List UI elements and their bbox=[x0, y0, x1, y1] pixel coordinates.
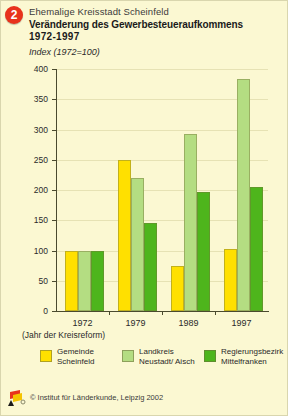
y-axis-label: Index (1972=100) bbox=[29, 47, 100, 57]
x-axis-tick-label: 1979 bbox=[106, 318, 166, 328]
bar bbox=[91, 251, 104, 312]
legend-swatch bbox=[40, 350, 52, 362]
chart-title-line-2: 1972-1997 bbox=[29, 31, 80, 42]
x-axis-tick bbox=[215, 311, 216, 315]
y-axis-tick-label: 0 bbox=[2, 306, 48, 316]
y-axis-tick-label: 200 bbox=[2, 185, 48, 195]
figure-number-badge: 2 bbox=[5, 6, 23, 24]
bar bbox=[118, 160, 131, 311]
ifl-flag-logo-icon bbox=[5, 388, 27, 408]
x-axis-tick-label: 1989 bbox=[159, 318, 219, 328]
bar bbox=[224, 249, 237, 311]
y-axis-tick-label: 100 bbox=[2, 246, 48, 256]
chart-title-line-1: Veränderung des Gewerbesteueraufkommens bbox=[29, 19, 243, 30]
y-axis-tick-label: 350 bbox=[2, 94, 48, 104]
legend-label: RegierungsbezirkMittelfranken bbox=[221, 347, 283, 366]
bar bbox=[171, 266, 184, 311]
bar bbox=[197, 192, 210, 311]
bar bbox=[65, 251, 78, 312]
legend-swatch bbox=[204, 350, 216, 362]
x-axis-tick bbox=[109, 311, 110, 315]
bar bbox=[78, 251, 91, 312]
y-axis-tick-label: 400 bbox=[2, 64, 48, 74]
y-axis-tick-label: 250 bbox=[2, 155, 48, 165]
y-axis-tick-label: 300 bbox=[2, 125, 48, 135]
legend-label: LandkreisNeustadt/ Aisch bbox=[139, 347, 195, 366]
x-axis-tick bbox=[162, 311, 163, 315]
x-axis-tick-label: 1997 bbox=[212, 318, 272, 328]
y-axis-tick-label: 50 bbox=[2, 276, 48, 286]
bar bbox=[144, 223, 157, 311]
bar bbox=[131, 178, 144, 311]
chart-footer: © Institut für Länderkunde, Leipzig 2002 bbox=[0, 388, 288, 412]
plot-area bbox=[56, 69, 268, 311]
legend-swatch bbox=[122, 350, 134, 362]
bar bbox=[184, 134, 197, 311]
y-axis-tick-label: 150 bbox=[2, 215, 48, 225]
bar bbox=[237, 79, 250, 311]
chart-legend: GemeindeScheinfeldLandkreisNeustadt/ Ais… bbox=[0, 348, 288, 378]
legend-label: GemeindeScheinfeld bbox=[57, 347, 94, 366]
chart-subtitle: Ehemalige Kreisstadt Scheinfeld bbox=[29, 6, 169, 17]
x-axis-tick-label: 1972 bbox=[53, 318, 113, 328]
bar bbox=[250, 187, 263, 311]
copyright-text: © Institut für Länderkunde, Leipzig 2002 bbox=[30, 393, 163, 402]
kreisreform-note: (Jahr der Kreisreform) bbox=[22, 330, 105, 340]
